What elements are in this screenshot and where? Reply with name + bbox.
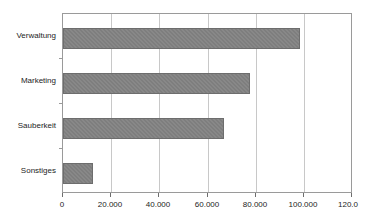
bar-sauberkeit	[63, 118, 224, 139]
x-axis-label-20000: 20.000	[98, 200, 122, 209]
category-label-marketing: Marketing	[0, 76, 56, 85]
category-label-sauberkeit: Sauberkeit	[0, 121, 56, 130]
gridline-100000	[304, 14, 305, 192]
x-axis-tick	[255, 193, 256, 197]
x-axis-tick	[303, 193, 304, 197]
bar-marketing	[63, 73, 250, 94]
x-axis-tick	[158, 193, 159, 197]
x-axis-label-0: 0	[60, 200, 64, 209]
x-axis-tick	[351, 193, 352, 197]
x-axis-label-120000: 120.0	[338, 200, 368, 209]
bar-verwaltung	[63, 28, 300, 49]
x-axis-tick	[207, 193, 208, 197]
category-label-sonstiges: Sonstiges	[0, 166, 56, 175]
bar-chart: Verwaltung Marketing Sauberkeit Sonstige…	[0, 0, 368, 224]
plot-area	[62, 13, 352, 193]
category-label-verwaltung: Verwaltung	[0, 31, 56, 40]
x-axis-label-80000: 80.000	[243, 200, 267, 209]
x-axis-tick	[62, 193, 63, 197]
chart-title	[0, 0, 368, 3]
x-axis-label-40000: 40.000	[146, 200, 170, 209]
x-axis-tick	[110, 193, 111, 197]
bar-sonstiges	[63, 163, 93, 184]
x-axis-label-60000: 60.000	[195, 200, 219, 209]
x-axis-label-100000: 100.000	[289, 200, 318, 209]
